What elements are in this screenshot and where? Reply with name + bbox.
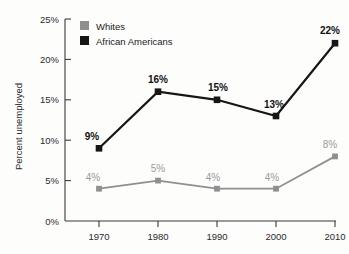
y-tick-label-10: 10% [40, 135, 60, 146]
series-point-african-americans-2000 [273, 113, 280, 120]
legend-swatch-african-americans [80, 36, 89, 45]
y-tick-label-5: 5% [45, 175, 59, 186]
legend-entry-whites[interactable]: Whites [80, 21, 125, 32]
unemployment-line-chart: 25% 20% 15% 10% 5% 0% Percent unemployed… [0, 0, 349, 254]
x-tick-label-1980: 1980 [147, 231, 168, 242]
series-point-whites-1990 [214, 186, 220, 192]
data-label-whites-2010: 8% [323, 139, 338, 150]
data-label-whites-1970: 4% [86, 172, 101, 183]
data-label-whites-1990: 4% [206, 172, 221, 183]
y-tick-label-15: 15% [40, 94, 60, 105]
legend-label-whites: Whites [96, 21, 125, 32]
series-point-whites-1970 [96, 186, 102, 192]
chart-canvas: 25% 20% 15% 10% 5% 0% Percent unemployed… [0, 0, 349, 254]
series-point-whites-1980 [155, 178, 161, 184]
x-tick-label-1970: 1970 [88, 231, 109, 242]
data-label-whites-1980: 5% [151, 163, 166, 174]
y-tick-label-25: 25% [40, 14, 60, 25]
series-point-whites-2000 [273, 186, 279, 192]
legend-swatch-whites [80, 21, 89, 30]
data-label-african-americans-2000: 13% [264, 99, 284, 110]
x-tick-label-2010: 2010 [324, 231, 345, 242]
y-axis-title: Percent unemployed [13, 83, 24, 170]
series-point-african-americans-1970 [96, 145, 103, 152]
legend-entry-african-americans[interactable]: African Americans [80, 36, 173, 47]
data-label-african-americans-2010: 22% [320, 25, 340, 36]
y-tick-label-20: 20% [40, 54, 60, 65]
y-tick-label-0: 0% [45, 216, 59, 227]
data-label-whites-2000: 4% [265, 172, 280, 183]
data-label-african-americans-1980: 16% [148, 74, 168, 85]
series-point-african-americans-1980 [155, 88, 162, 95]
series-line-african-americans [99, 43, 335, 148]
data-label-african-americans-1970: 9% [85, 131, 100, 142]
legend: Whites African Americans [80, 21, 173, 47]
x-tick-label-1990: 1990 [206, 231, 227, 242]
series-point-african-americans-1990 [214, 97, 221, 104]
series-point-african-americans-2010 [332, 40, 339, 47]
data-label-african-americans-1990: 15% [208, 82, 228, 93]
legend-label-african-americans: African Americans [96, 36, 173, 47]
series-point-whites-2010 [332, 154, 338, 160]
x-tick-label-2000: 2000 [265, 231, 286, 242]
